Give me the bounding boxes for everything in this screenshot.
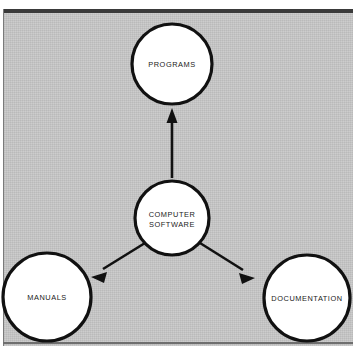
arrow-head-down-right-icon: [239, 273, 255, 284]
node-manuals-label: MANUALS: [27, 293, 67, 302]
node-computer-software-label-line2: SOFTWARE: [149, 220, 195, 229]
node-computer-software[interactable]: COMPUTER SOFTWARE: [135, 181, 209, 255]
edge-software-to-programs: [167, 108, 178, 178]
node-manuals[interactable]: MANUALS: [3, 253, 91, 341]
arrow-head-down-left-icon: [91, 272, 107, 283]
edge-software-to-manuals: [91, 243, 145, 283]
node-programs[interactable]: PROGRAMS: [132, 24, 212, 104]
edge-software-to-documentation: [200, 243, 255, 284]
node-documentation[interactable]: DOCUMENTATION: [264, 255, 350, 341]
node-documentation-label: DOCUMENTATION: [271, 294, 342, 303]
edge-line-down-left: [103, 243, 145, 269]
arrow-head-up-icon: [167, 108, 178, 123]
diagram-figure: PROGRAMS COMPUTER SOFTWARE MANUALS DOCUM…: [0, 0, 353, 349]
diagram-canvas: PROGRAMS COMPUTER SOFTWARE MANUALS DOCUM…: [0, 0, 353, 349]
edge-line-down-right: [200, 243, 243, 270]
node-computer-software-label-line1: COMPUTER: [149, 210, 196, 219]
node-programs-label: PROGRAMS: [148, 60, 196, 69]
